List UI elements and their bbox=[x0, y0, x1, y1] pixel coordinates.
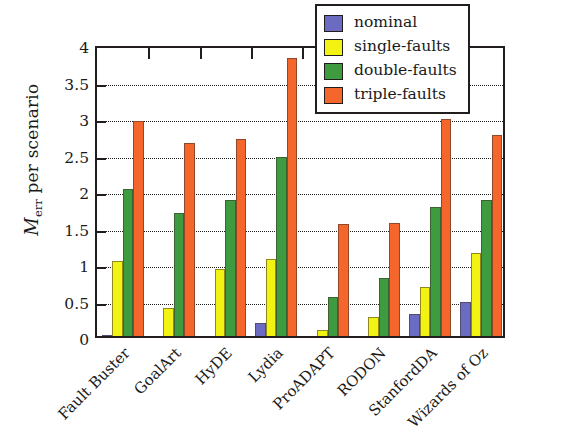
bar bbox=[379, 278, 390, 336]
bar bbox=[184, 143, 195, 336]
legend-item: triple-faults bbox=[324, 83, 457, 107]
x-axis-tick-label: Fault Buster bbox=[0, 344, 133, 440]
bar bbox=[133, 121, 144, 336]
bar bbox=[102, 335, 113, 336]
y-axis-tick-label: 3 bbox=[79, 112, 89, 130]
bar bbox=[163, 308, 174, 336]
y-axis-title-tail: per scenario bbox=[22, 84, 42, 200]
bar bbox=[481, 200, 492, 337]
y-axis-tick-label: 1 bbox=[79, 258, 89, 276]
legend-label: nominal bbox=[354, 15, 417, 31]
x-axis-tick-label: Wizards of Oz bbox=[267, 344, 492, 440]
legend-item: nominal bbox=[324, 11, 457, 35]
bar bbox=[276, 157, 287, 336]
y-axis-tick-label: 0 bbox=[79, 331, 89, 349]
y-axis-title-subscript: err bbox=[31, 199, 45, 217]
y-axis-title-symbol: M bbox=[21, 217, 42, 236]
bar bbox=[338, 224, 349, 336]
bar bbox=[368, 317, 379, 336]
x-axis-tick-label: Lydia bbox=[62, 344, 287, 440]
bar bbox=[266, 259, 277, 336]
x-axis-tick-label: RODON bbox=[165, 344, 390, 440]
legend-label: double-faults bbox=[354, 63, 457, 79]
x-axis-tick-label: GoalArt bbox=[0, 344, 185, 440]
bar bbox=[225, 200, 236, 336]
bar bbox=[430, 207, 441, 336]
y-axis-tick-label: 4 bbox=[79, 39, 89, 57]
y-axis-tick-label: 3.5 bbox=[64, 76, 89, 94]
legend-swatch bbox=[324, 15, 343, 32]
bar bbox=[389, 223, 400, 336]
x-axis-tick-label: HyDE bbox=[11, 344, 236, 440]
bar bbox=[328, 297, 339, 336]
y-axis-title: Merr per scenario bbox=[21, 45, 44, 275]
y-axis-tick-label: 0.5 bbox=[64, 295, 89, 313]
y-axis-tick-label: 2 bbox=[79, 185, 89, 203]
legend-swatch bbox=[324, 63, 343, 80]
bar-chart-figure: Merr per scenario 00.511.522.533.54 Faul… bbox=[0, 0, 561, 440]
bar bbox=[174, 213, 185, 336]
bar bbox=[460, 302, 471, 336]
bar bbox=[441, 119, 452, 336]
legend-swatch bbox=[324, 39, 343, 56]
bar bbox=[471, 253, 482, 336]
bar bbox=[317, 330, 328, 336]
bar bbox=[255, 323, 266, 336]
bar bbox=[492, 135, 503, 336]
legend-swatch bbox=[324, 87, 343, 104]
chart-legend: nominalsingle-faultsdouble-faultstriple-… bbox=[315, 4, 470, 114]
legend-label: triple-faults bbox=[354, 87, 446, 103]
bar bbox=[112, 261, 123, 336]
x-axis-tick-label: StanfordDA bbox=[216, 344, 441, 440]
bar bbox=[236, 139, 247, 336]
bar bbox=[123, 189, 134, 336]
x-axis-tick-label: ProADAPT bbox=[113, 344, 338, 440]
legend-item: double-faults bbox=[324, 59, 457, 83]
bar bbox=[287, 58, 298, 336]
y-axis-tick-label: 1.5 bbox=[64, 222, 89, 240]
bar bbox=[215, 269, 226, 336]
legend-label: single-faults bbox=[354, 39, 450, 55]
y-axis-tick-label: 2.5 bbox=[64, 149, 89, 167]
bar bbox=[409, 314, 420, 336]
bar bbox=[420, 287, 431, 336]
legend-item: single-faults bbox=[324, 35, 457, 59]
